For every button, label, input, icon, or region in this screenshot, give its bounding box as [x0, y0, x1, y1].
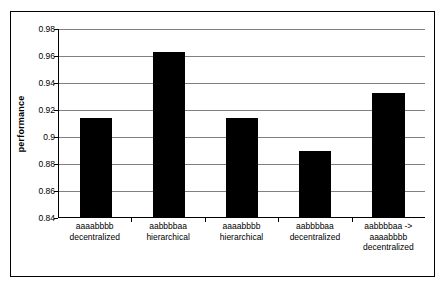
x-axis-tick-mark: [205, 218, 206, 222]
bar[interactable]: [299, 151, 331, 217]
plot-area: [58, 29, 425, 218]
bar-series: [59, 29, 425, 217]
x-axis-category-line: decentralized: [59, 232, 130, 243]
x-axis-category-label: aaaabbbbdecentralized: [58, 221, 131, 253]
x-axis-category-label: aaaabbbbhierarchical: [205, 221, 278, 253]
x-axis-category-label: aabbbbaa ->aaaabbbbdecentralized: [352, 221, 425, 253]
bar[interactable]: [226, 118, 258, 217]
x-axis-category-line: aaaabbbb: [353, 232, 424, 243]
chart-frame: performance 0.980.960.940.920.90.880.860…: [10, 11, 435, 277]
x-axis-category-label: aabbbbaahierarchical: [131, 221, 204, 253]
y-axis-tick-layer: 0.980.960.940.920.90.880.860.84: [11, 29, 58, 218]
x-axis-category-line: aabbbbaa: [279, 221, 350, 232]
x-axis-category-line: aabbbbaa ->: [353, 221, 424, 232]
x-axis-category-line: decentralized: [279, 232, 350, 243]
x-axis-category-label: aabbbbaadecentralized: [278, 221, 351, 253]
bar-slot: [279, 29, 352, 217]
x-axis-category-line: aaaabbbb: [59, 221, 130, 232]
x-axis-tick-mark: [278, 218, 279, 222]
x-axis-category-line: hierarchical: [132, 232, 203, 243]
x-axis-category-line: aabbbbaa: [132, 221, 203, 232]
x-axis-category-line: aaaabbbb: [206, 221, 277, 232]
bar-slot: [205, 29, 278, 217]
bar-slot: [352, 29, 425, 217]
y-axis-tick-mark: [54, 218, 58, 219]
x-axis-tick-mark: [352, 218, 353, 222]
bar[interactable]: [372, 93, 404, 217]
x-axis-category-line: decentralized: [353, 242, 424, 253]
bar[interactable]: [80, 118, 112, 217]
x-axis-category-line: hierarchical: [206, 232, 277, 243]
bar-slot: [132, 29, 205, 217]
bar[interactable]: [153, 52, 185, 217]
x-axis-tick-mark: [131, 218, 132, 222]
bar-slot: [59, 29, 132, 217]
x-axis-labels: aaaabbbbdecentralizedaabbbbaahierarchica…: [58, 221, 425, 253]
